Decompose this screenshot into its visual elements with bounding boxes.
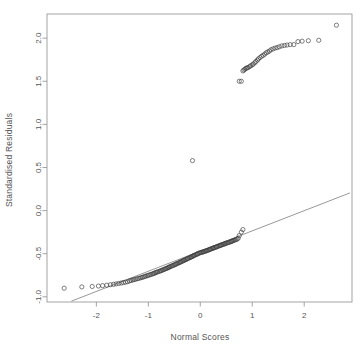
x-tick-label: 1 [250,311,255,320]
y-axis-title: Standardised Residuals [4,113,14,207]
plot-frame [47,14,352,302]
data-point [306,39,310,43]
data-point [296,39,300,43]
data-point [62,286,66,290]
qq-plot-svg: Normal Scores Standardised Residuals -2-… [0,0,364,349]
y-tick-label: 1.5 [34,75,43,87]
data-point [90,284,94,288]
data-point [101,284,105,288]
ticks-group: -2-1012-1.0-0.50.00.51.01.52.0 [34,32,307,320]
axis-titles-group: Normal Scores Standardised Residuals [4,113,229,342]
scatter-markers [62,23,338,290]
x-tick-label: 0 [198,311,203,320]
data-point [317,38,321,42]
data-point [190,158,194,162]
data-point [300,39,304,43]
y-tick-label: 0.0 [34,204,43,216]
x-tick-label: -2 [93,311,101,320]
x-axis-title: Normal Scores [171,332,230,342]
x-tick-label: -1 [145,311,153,320]
y-tick-label: -0.5 [34,246,43,260]
qq-plot-figure: Normal Scores Standardised Residuals -2-… [0,0,364,349]
y-tick-label: -1.0 [34,289,43,303]
data-point [334,23,338,27]
y-tick-label: 0.5 [34,161,43,173]
data-points-group [62,23,338,290]
x-tick-label: 2 [302,311,307,320]
data-point [96,284,100,288]
data-point [80,285,84,289]
y-tick-label: 1.0 [34,118,43,130]
plot-border [47,14,352,302]
y-tick-label: 2.0 [34,32,43,44]
